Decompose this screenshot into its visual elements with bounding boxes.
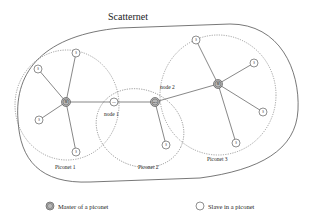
legend-master: Master of a piconet	[46, 202, 109, 210]
node-s1a: S	[34, 65, 42, 73]
node-s2a: S	[162, 141, 170, 149]
node-n1: S/S	[110, 98, 118, 106]
slave-symbol-icon	[196, 202, 204, 210]
legend-slave-label: Slave in a piconet	[208, 203, 255, 210]
node-s3d: S	[232, 139, 240, 147]
node-2-caption: node 2	[160, 84, 175, 90]
link-m3-s3d	[218, 84, 236, 143]
piconet-3-boundary	[160, 35, 276, 155]
piconet-2-label: Piconet 2	[138, 164, 159, 170]
node-m1: M	[62, 98, 71, 107]
node-s3a: S	[192, 36, 200, 44]
link-m1-s1a	[38, 69, 66, 102]
link-m3-s3a	[196, 40, 218, 84]
legend-master-label: Master of a piconet	[58, 203, 109, 210]
link-n2-s2a	[155, 102, 166, 145]
scatternet-diagram: Scatternet MMS/SM/SSSSSSSSSS Piconet 1 P…	[0, 0, 309, 219]
link-m1-s1c	[39, 102, 66, 120]
node-label: M	[65, 100, 68, 104]
node-label: S/S	[112, 101, 116, 104]
node-s1b: S	[72, 49, 80, 57]
link-m1-s1d	[66, 102, 76, 152]
node-m3: M	[214, 80, 223, 89]
legend-slave: Slave in a piconet	[196, 202, 255, 210]
node-1-caption: node 1	[104, 111, 119, 117]
piconet-1-label: Piconet 1	[55, 164, 76, 170]
node-s3b: S	[250, 59, 258, 67]
node-s1d: S	[72, 148, 80, 156]
node-s1c: S	[35, 116, 43, 124]
node-label: M	[217, 82, 220, 86]
piconet-3-label: Piconet 3	[207, 156, 228, 162]
link-m1-s1b	[66, 53, 76, 102]
link-m3-s3b	[218, 63, 254, 84]
link-m3-s3c	[218, 84, 263, 112]
node-s3c: S	[259, 108, 267, 116]
scatternet-title: Scatternet	[108, 11, 148, 22]
node-n2: M/S	[151, 98, 160, 107]
node-label: M/S	[153, 101, 158, 104]
